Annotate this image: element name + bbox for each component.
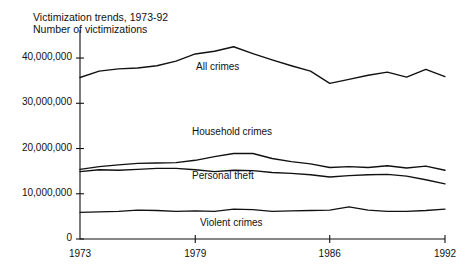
series-line-personal-theft [80, 168, 445, 183]
x-axis-tick-label: 1973 [50, 248, 110, 259]
chart-container: Victimization trends, 1973-92 Number of … [0, 0, 457, 276]
x-axis-tick-label: 1986 [300, 248, 360, 259]
series-line-violent-crimes [80, 207, 445, 212]
y-axis-tick-label: 10,000,000 [22, 187, 72, 198]
x-axis-tick-label: 1992 [415, 248, 457, 259]
x-axis-tick-label: 1979 [165, 248, 225, 259]
series-line-household-crimes [80, 154, 445, 171]
series-label-violent-crimes: Violent crimes [200, 217, 263, 228]
series-label-personal-theft: Personal theft [192, 170, 254, 181]
y-axis-tick-label: 30,000,000 [22, 96, 72, 107]
series-label-household-crimes: Household crimes [192, 126, 272, 137]
series-line-all-crimes [80, 47, 445, 84]
y-axis-tick-label: 0 [66, 232, 72, 243]
series-label-all-crimes: All crimes [196, 61, 239, 72]
y-axis-tick-label: 40,000,000 [22, 51, 72, 62]
y-axis-tick-label: 20,000,000 [22, 142, 72, 153]
